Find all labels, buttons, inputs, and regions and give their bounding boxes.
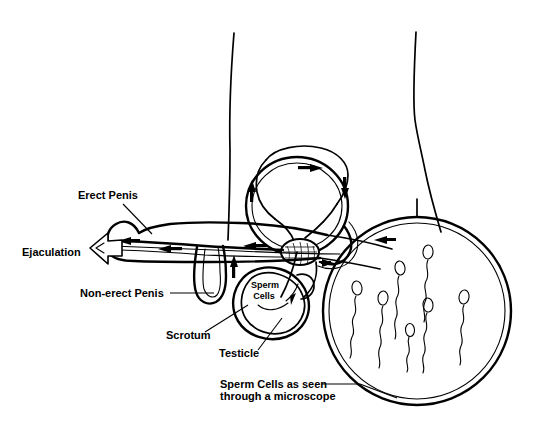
arrow-ring-left-tail [250, 191, 253, 202]
sperm-tail [407, 337, 410, 372]
label-testicle: Testicle [219, 347, 259, 359]
arrow-vas-up-tail [232, 266, 235, 278]
sperm-tail [395, 276, 399, 339]
sperm-cell [422, 298, 433, 373]
sperm-head [405, 323, 415, 337]
sperm-tail [350, 296, 356, 358]
sperm-cells-group [350, 245, 470, 373]
sperm-cell [458, 289, 470, 365]
arrow-urethra-tail [255, 244, 267, 247]
arrow-prostate-tail [321, 261, 331, 264]
diagram-canvas: Erect Penis Ejaculation Non-erect Penis … [0, 0, 538, 441]
sperm-head [394, 260, 406, 276]
caption-line1: Sperm Cells as seen [220, 378, 327, 390]
urethra-lower-line [120, 250, 283, 257]
label-sperm-cells-line2: Cells [253, 291, 275, 301]
arrow-ring-top-tail [298, 166, 311, 169]
sperm-head [377, 291, 388, 306]
sperm-tail [460, 305, 464, 365]
sperm-cell [377, 291, 388, 368]
bladder-neck-left [275, 219, 294, 241]
anatomy-illustration: Erect Penis Ejaculation Non-erect Penis … [0, 0, 538, 441]
label-non-erect-penis: Non-erect Penis [80, 287, 164, 299]
arrow-hip-duct [374, 236, 387, 244]
vas-deferens-ring-inner [252, 163, 342, 249]
bladder-outline-left [256, 160, 275, 219]
label-ejaculation: Ejaculation [22, 246, 81, 258]
sperm-head [351, 280, 363, 295]
sperm-tail [379, 306, 383, 368]
sperm-cell [350, 280, 363, 358]
label-erect-penis: Erect Penis [78, 189, 138, 201]
label-sperm-cells-line1: Sperm [251, 280, 279, 290]
sperm-flow-curve [258, 303, 288, 310]
sperm-cell [405, 323, 415, 372]
scrotum-outline [233, 267, 309, 339]
sperm-head [458, 289, 470, 304]
sperm-cell [394, 260, 406, 339]
internal-organs-group [120, 146, 358, 297]
sperm-tail [423, 313, 427, 373]
caption-line2: through a microscope [220, 390, 336, 402]
arrow-ring-right-tail [343, 177, 346, 189]
microscope-circle-outer [323, 217, 511, 405]
arrow-duct-left-tail [130, 239, 140, 242]
sperm-flow-arrowhead [290, 293, 296, 305]
label-scrotum: Scrotum [166, 329, 211, 341]
arrow-ring-top [310, 164, 323, 172]
arrow-hip-duct-tail [386, 238, 396, 241]
torso-right-line [414, 32, 441, 232]
torso-left-line [228, 33, 234, 240]
leader-scrotum [205, 305, 248, 332]
microscope-view [323, 217, 511, 405]
sperm-head [423, 245, 434, 260]
arrow-penis-shaft-tail [170, 247, 182, 250]
